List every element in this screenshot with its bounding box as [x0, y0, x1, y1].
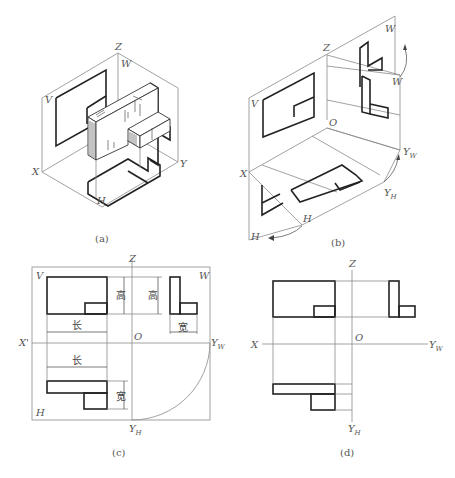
- dim-label-side-width: 宽: [178, 321, 188, 333]
- panel-c-three-views: 高 高 宽 长 长 宽 Z V W X' O YW H YH (c): [18, 253, 226, 458]
- h-plane: [249, 128, 400, 225]
- dim-label-front-length: 长: [72, 320, 82, 331]
- x-axis-label: X: [250, 339, 259, 350]
- v-projection-notch: [87, 96, 106, 108]
- x-axis-label: X: [31, 166, 40, 177]
- v-plane-label: V: [36, 270, 45, 281]
- h-plane-label: H: [96, 195, 106, 206]
- z-axis-label: Z: [114, 41, 123, 52]
- yh-yw-transfer-arc: [132, 343, 210, 420]
- z-axis-label: Z: [348, 258, 357, 269]
- side-view-leg: [399, 306, 415, 317]
- h-plane-label: H: [35, 407, 45, 418]
- v-projection: [263, 73, 314, 137]
- front-view: [273, 281, 335, 317]
- w-projection-back: [360, 42, 382, 87]
- front-view-notch: [85, 303, 107, 314]
- caption-c: (c): [112, 447, 126, 458]
- three-view-projection-figure: Z W V X Y H (a): [0, 0, 455, 478]
- side-view-upright: [170, 277, 180, 314]
- v-plane-label: V: [251, 98, 260, 109]
- w-plane-label-top: W: [385, 23, 396, 34]
- front-view: [47, 277, 107, 314]
- arrowhead-icon: [268, 235, 274, 241]
- dim-label-side-height: 高: [148, 289, 158, 301]
- w-plane-label: W: [199, 270, 210, 281]
- h-projection-rotated: [262, 185, 283, 215]
- panel-a-isometric: Z W V X Y H (a): [31, 41, 188, 244]
- yw-axis-label: YW: [403, 146, 418, 160]
- dim-label-top-length: 长: [72, 355, 82, 366]
- w-plane-label: W: [121, 58, 132, 69]
- dim-label-front-height: 高: [116, 289, 126, 301]
- yh-axis-label: YH: [348, 423, 362, 437]
- caption-b: (b): [331, 237, 345, 248]
- z-axis-label: Z: [322, 42, 331, 53]
- dim-label-top-width: 宽: [116, 390, 126, 402]
- panel-b-unfolding: Z W W V O X YW YH H H (b): [239, 16, 418, 248]
- top-view: [273, 384, 335, 394]
- yw-axis-label: YW: [429, 339, 444, 353]
- caption-d: (d): [340, 447, 354, 458]
- w-plane-label-rotated: W: [392, 76, 403, 87]
- side-view-leg: [180, 303, 197, 314]
- x-axis-label: X': [18, 337, 29, 348]
- h-projection-inner: [128, 171, 148, 183]
- h-plane-inner: [312, 136, 380, 175]
- y-axis-label: Y: [180, 158, 188, 169]
- top-view-notch: [311, 394, 335, 410]
- side-view-upright: [389, 281, 399, 317]
- z-axis-label: Z: [128, 253, 137, 264]
- front-view-notch: [314, 306, 335, 317]
- h-plane-inner: [262, 165, 337, 192]
- caption-a: (a): [95, 233, 109, 244]
- w-rotation-arrow: [400, 48, 407, 77]
- yh-axis-label: YH: [129, 423, 143, 437]
- origin-label: O: [134, 331, 142, 342]
- top-view-notch: [84, 393, 107, 409]
- v-plane-label: V: [45, 94, 54, 105]
- origin-label: O: [355, 332, 363, 343]
- h-plane-label-bottom: H: [250, 231, 260, 242]
- h-projection: [291, 165, 362, 202]
- h-projection-rotated-inner: [262, 194, 280, 203]
- arrowhead-icon: [403, 44, 407, 50]
- yh-axis-label: YH: [384, 187, 398, 201]
- panel-d-three-views-final: Z X O YW YH (d): [250, 258, 444, 458]
- yw-axis-label: YW: [211, 337, 226, 351]
- w-plane-top: [327, 66, 400, 75]
- v-projection-notch: [294, 97, 314, 117]
- origin-label: O: [329, 117, 337, 128]
- v-plane-frame: [249, 16, 395, 98]
- top-view: [47, 381, 107, 393]
- x-axis-label: X: [239, 168, 248, 179]
- h-plane-label-rotated: H: [302, 213, 312, 224]
